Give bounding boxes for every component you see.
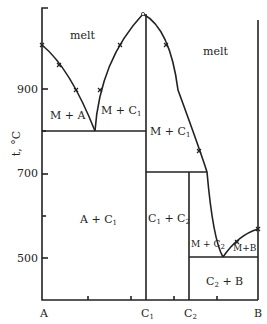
x-label-c2: C2 xyxy=(184,308,197,321)
y-tick-500: 500 xyxy=(17,253,38,264)
region-c2-plus-b: C2 + B xyxy=(206,276,243,289)
region-m-plus-c1-right: M + C1 xyxy=(150,126,190,139)
y-tick-900: 900 xyxy=(17,84,38,95)
region-melt-right: melt xyxy=(203,46,228,57)
congruent-melting-point xyxy=(141,12,144,15)
region-m-plus-c1-left: M + C1 xyxy=(101,105,141,118)
region-m-plus-c2: M + C2 xyxy=(191,240,225,251)
x-label-a: A xyxy=(40,308,48,319)
region-melt-left: melt xyxy=(70,30,95,41)
x-label-b: B xyxy=(254,308,262,319)
region-m-plus-b: M+B xyxy=(233,244,256,253)
region-a-plus-c1: A + C1 xyxy=(80,214,117,227)
region-c1-plus-c2: C1 + C2 xyxy=(148,213,190,226)
y-axis-label: t, °C xyxy=(11,131,22,156)
x-label-c1: C1 xyxy=(141,308,154,321)
y-tick-700: 700 xyxy=(17,168,38,179)
region-m-plus-a: M + A xyxy=(50,110,85,121)
